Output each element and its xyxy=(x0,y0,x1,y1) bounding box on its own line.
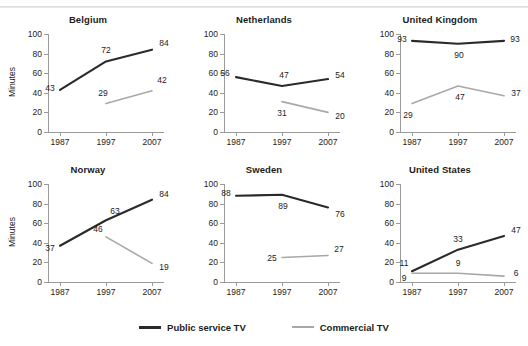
x-tick-label: 1987 xyxy=(403,287,422,297)
data-label: 72 xyxy=(101,45,110,55)
x-tick xyxy=(106,132,107,136)
x-tick xyxy=(458,132,459,136)
chart-panel-norway: NorwayMinutes020406080100198719972007376… xyxy=(0,162,176,312)
y-tick xyxy=(396,282,400,283)
legend-label: Public service TV xyxy=(167,322,246,333)
data-label: 56 xyxy=(220,68,229,78)
plot-area: 020406080100198719972007939093294737 xyxy=(400,34,516,132)
series-line xyxy=(412,41,504,44)
x-tick-label: 1997 xyxy=(273,137,292,147)
y-tick-label: 0 xyxy=(213,127,218,137)
data-label: 89 xyxy=(278,201,287,211)
data-label: 42 xyxy=(157,75,166,85)
y-tick-label: 40 xyxy=(385,238,394,248)
data-label: 31 xyxy=(277,108,286,118)
y-tick-label: 40 xyxy=(209,88,218,98)
y-tick-label: 100 xyxy=(380,29,394,39)
y-tick-label: 80 xyxy=(209,199,218,209)
panel-title: Sweden xyxy=(176,164,352,175)
x-tick-label: 1997 xyxy=(97,287,116,297)
data-label: 54 xyxy=(335,70,344,80)
x-tick-label: 1997 xyxy=(449,137,468,147)
x-tick xyxy=(328,132,329,136)
data-label: 46 xyxy=(93,224,102,234)
x-tick xyxy=(236,132,237,136)
y-tick-label: 20 xyxy=(385,107,394,117)
y-axis-label: Minutes xyxy=(7,67,17,97)
y-axis-label: Minutes xyxy=(7,217,17,247)
plot-area: 0204060801001987199720073763844619 xyxy=(48,184,164,282)
x-tick xyxy=(328,282,329,286)
chart-legend: Public service TVCommercial TV xyxy=(0,314,528,340)
chart-panel-belgium: BelgiumMinutes02040608010019871997200743… xyxy=(0,12,176,162)
y-tick-label: 20 xyxy=(385,257,394,267)
series-lines xyxy=(224,184,340,282)
small-multiples-grid: BelgiumMinutes02040608010019871997200743… xyxy=(0,12,528,312)
x-tick xyxy=(504,132,505,136)
data-label: 43 xyxy=(45,83,54,93)
y-tick-label: 0 xyxy=(389,127,394,137)
data-label: 6 xyxy=(514,268,519,278)
x-tick-label: 1997 xyxy=(449,287,468,297)
x-tick-label: 2007 xyxy=(319,287,338,297)
data-label: 25 xyxy=(267,253,276,263)
legend-label: Commercial TV xyxy=(320,322,389,333)
data-label: 76 xyxy=(335,209,344,219)
x-tick-label: 1987 xyxy=(227,287,246,297)
plot-area: 0204060801001987199720078889762527 xyxy=(224,184,340,282)
top-divider xyxy=(0,6,528,8)
plot-area: 0204060801001987199720074372842942 xyxy=(48,34,164,132)
x-tick-label: 2007 xyxy=(319,137,338,147)
y-tick-label: 0 xyxy=(37,127,42,137)
data-label: 93 xyxy=(397,34,406,44)
y-tick xyxy=(396,132,400,133)
series-line xyxy=(60,50,152,90)
series-line xyxy=(282,102,328,113)
y-tick-label: 60 xyxy=(385,68,394,78)
x-tick xyxy=(60,132,61,136)
y-tick xyxy=(44,282,48,283)
panel-title: Netherlands xyxy=(176,14,352,25)
chart-panel-netherlands: Netherlands02040608010019871997200756475… xyxy=(176,12,352,162)
data-label: 47 xyxy=(279,70,288,80)
plot-area: 020406080100198719972007113347996 xyxy=(400,184,516,282)
y-tick-label: 20 xyxy=(33,107,42,117)
y-tick-label: 80 xyxy=(385,49,394,59)
x-tick-label: 2007 xyxy=(143,137,162,147)
chart-panel-united-states: United States020406080100198719972007113… xyxy=(352,162,528,312)
x-tick-label: 2007 xyxy=(495,287,514,297)
y-tick-label: 80 xyxy=(33,49,42,59)
x-tick xyxy=(106,282,107,286)
data-label: 93 xyxy=(510,34,519,44)
series-line xyxy=(282,256,328,258)
y-tick-label: 100 xyxy=(204,179,218,189)
y-tick-label: 20 xyxy=(209,107,218,117)
data-label: 88 xyxy=(221,188,230,198)
data-label: 9 xyxy=(456,258,461,268)
x-tick xyxy=(458,282,459,286)
data-label: 37 xyxy=(45,243,54,253)
x-tick-label: 2007 xyxy=(495,137,514,147)
data-label: 9 xyxy=(402,273,407,283)
y-tick-label: 0 xyxy=(213,277,218,287)
data-label: 19 xyxy=(159,262,168,272)
series-line xyxy=(412,273,504,276)
x-tick-label: 1987 xyxy=(403,137,422,147)
y-tick-label: 60 xyxy=(33,218,42,228)
panel-title: United Kingdom xyxy=(352,14,528,25)
data-label: 47 xyxy=(455,92,464,102)
x-tick-label: 1987 xyxy=(51,137,70,147)
data-label: 11 xyxy=(400,258,409,268)
legend-item-public-service-tv: Public service TV xyxy=(139,322,246,333)
y-tick-label: 80 xyxy=(385,199,394,209)
x-tick-label: 1997 xyxy=(97,137,116,147)
y-tick xyxy=(220,282,224,283)
y-tick-label: 80 xyxy=(33,199,42,209)
y-tick-label: 100 xyxy=(204,29,218,39)
y-tick xyxy=(220,132,224,133)
legend-item-commercial-tv: Commercial TV xyxy=(292,322,389,333)
y-tick-label: 60 xyxy=(385,218,394,228)
x-tick xyxy=(60,282,61,286)
data-label: 20 xyxy=(335,111,344,121)
y-tick-label: 100 xyxy=(380,179,394,189)
